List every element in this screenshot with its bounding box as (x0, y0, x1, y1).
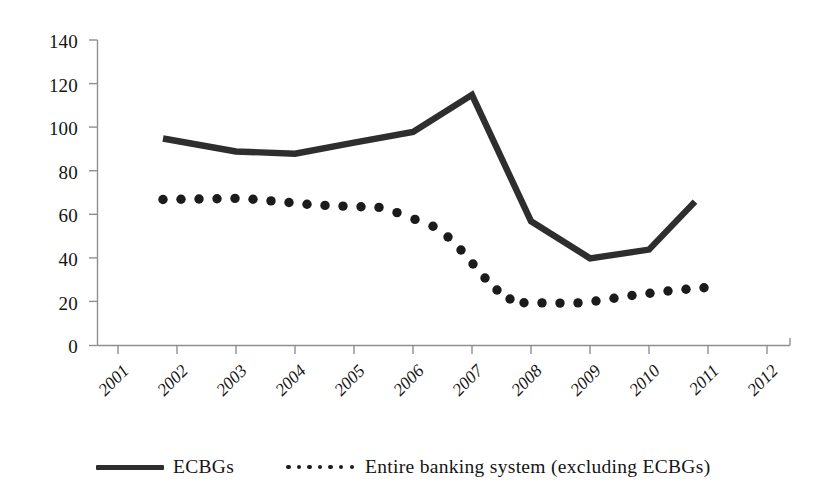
dotted-line-swatch-icon (286, 465, 354, 470)
chart-figure: 140 120 100 80 60 40 20 0 (0, 0, 819, 499)
legend-item-entire-banking-system[interactable]: Entire banking system (excluding ECBGs) (286, 457, 710, 477)
solid-line-swatch-icon (96, 465, 164, 470)
chart-legend: ECBGs Entire banking system (excluding E… (96, 452, 776, 482)
plot-area (0, 0, 819, 499)
legend-item-label: Entire banking system (excluding ECBGs) (365, 457, 710, 477)
legend-item-label: ECBGs (173, 457, 234, 477)
series-line-ecbgs-render (163, 95, 695, 258)
legend-item-ecbgs[interactable]: ECBGs (96, 457, 234, 477)
y-axis-ticks (89, 40, 98, 346)
